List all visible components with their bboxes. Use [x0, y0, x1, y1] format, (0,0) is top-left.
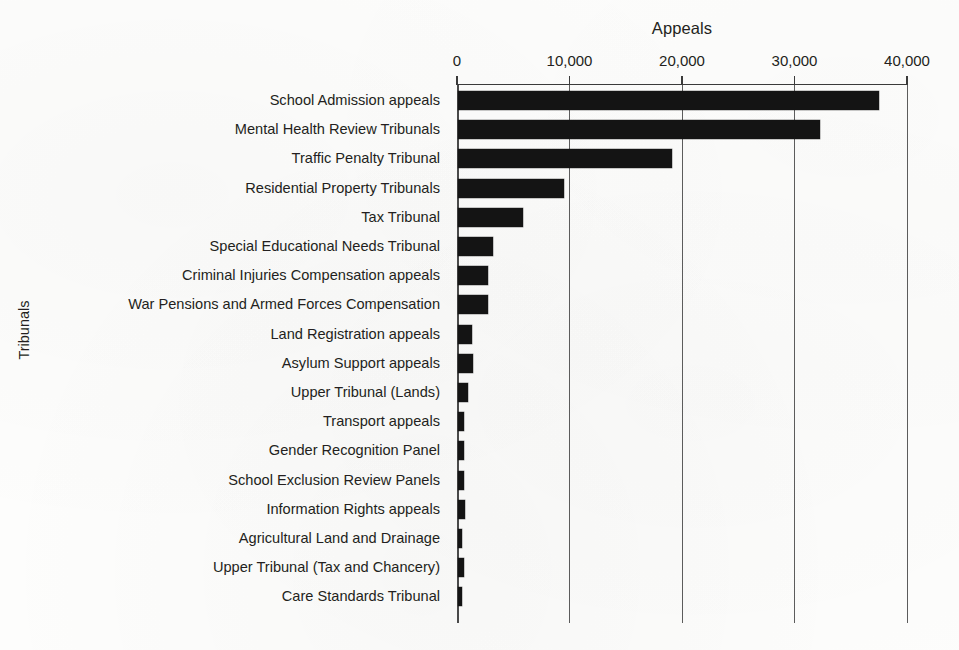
bar	[458, 587, 462, 606]
category-label: Mental Health Review Tribunals	[235, 120, 440, 139]
bar	[458, 354, 473, 373]
x-tick-label: 10,000	[547, 52, 593, 69]
y-axis-category-labels: School Admission appealsMental Health Re…	[0, 85, 449, 623]
category-label: Traffic Penalty Tribunal	[292, 149, 440, 168]
bar	[458, 91, 879, 110]
x-axis-tick	[906, 76, 907, 85]
bar	[458, 208, 523, 227]
bar	[458, 441, 464, 460]
category-label: Land Registration appeals	[270, 325, 440, 344]
bar	[458, 529, 462, 548]
category-label: Care Standards Tribunal	[282, 587, 440, 606]
bar	[458, 295, 488, 314]
category-label: Gender Recognition Panel	[269, 441, 440, 460]
category-label: Tax Tribunal	[361, 208, 440, 227]
gridline	[907, 85, 908, 623]
x-tick-label: 30,000	[772, 52, 818, 69]
bar	[458, 383, 468, 402]
bar-chart-figure: Appeals Tribunals 010,00020,00030,00040,…	[0, 0, 959, 650]
bar	[458, 179, 564, 198]
bar	[458, 149, 672, 168]
category-label: Special Educational Needs Tribunal	[210, 237, 440, 256]
x-tick-label: 40,000	[884, 52, 930, 69]
bar	[458, 471, 464, 490]
bar	[458, 558, 464, 577]
category-label: School Admission appeals	[270, 91, 440, 110]
bar	[458, 237, 493, 256]
category-label: Transport appeals	[323, 412, 440, 431]
bar	[458, 120, 820, 139]
bar	[458, 325, 472, 344]
category-label: Upper Tribunal (Tax and Chancery)	[213, 558, 440, 577]
bar	[458, 500, 465, 519]
category-label: School Exclusion Review Panels	[228, 471, 440, 490]
category-label: Agricultural Land and Drainage	[239, 529, 440, 548]
x-axis-tick	[794, 76, 795, 85]
category-label: Criminal Injuries Compensation appeals	[182, 266, 440, 285]
category-label: Upper Tribunal (Lands)	[291, 383, 440, 402]
category-label: Asylum Support appeals	[282, 354, 440, 373]
bar	[458, 412, 464, 431]
x-axis-tick-labels: 010,00020,00030,00040,000	[0, 52, 959, 72]
bar	[458, 266, 488, 285]
x-tick-label: 20,000	[659, 52, 705, 69]
x-tick-label: 0	[453, 52, 461, 69]
chart-title: Appeals	[457, 19, 907, 38]
category-label: Information Rights appeals	[266, 500, 440, 519]
x-axis-tick	[681, 76, 682, 85]
x-axis-tick	[569, 76, 570, 85]
gridline	[794, 85, 795, 623]
x-axis-tick	[456, 76, 457, 85]
category-label: War Pensions and Armed Forces Compensati…	[128, 295, 440, 314]
gridline	[682, 85, 683, 623]
category-label: Residential Property Tribunals	[245, 179, 440, 198]
plot-area	[457, 85, 907, 623]
